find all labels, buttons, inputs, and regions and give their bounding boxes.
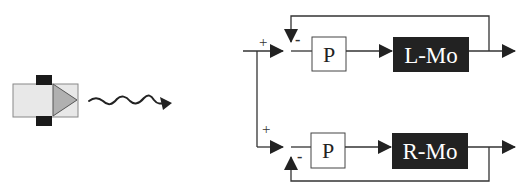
right-motor-label: R-Mo <box>403 139 458 164</box>
top-minus-sign: - <box>295 31 300 48</box>
wavy-arrow-icon <box>89 96 172 110</box>
bottom-plus-sign: + <box>262 121 270 137</box>
top-controller-label: P <box>323 42 335 67</box>
robot-icon <box>13 75 78 126</box>
control-diagram: + - P L-Mo + - P R-Mo <box>0 0 528 191</box>
bottom-wheel <box>36 116 52 126</box>
bottom-minus-sign: - <box>297 148 302 165</box>
top-wheel <box>36 75 52 85</box>
left-motor-label: L-Mo <box>404 43 458 68</box>
bottom-loop: + - P R-Mo <box>262 121 515 181</box>
top-plus-sign: + <box>259 34 267 50</box>
bottom-controller-label: P <box>322 138 334 163</box>
top-loop: + - P L-Mo <box>259 16 515 72</box>
